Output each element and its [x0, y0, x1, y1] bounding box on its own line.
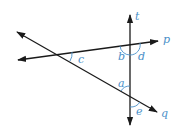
label-q: q: [161, 107, 168, 120]
label-p: p: [163, 33, 170, 46]
label-angle-a: a: [118, 77, 125, 90]
label-angle-b: b: [118, 50, 125, 63]
label-t: t: [135, 10, 140, 23]
label-angle-e: e: [136, 105, 143, 118]
label-angle-d: d: [138, 50, 145, 63]
label-angle-c: c: [78, 53, 84, 66]
geometry-diagram: t p q c b d a e: [0, 0, 178, 131]
